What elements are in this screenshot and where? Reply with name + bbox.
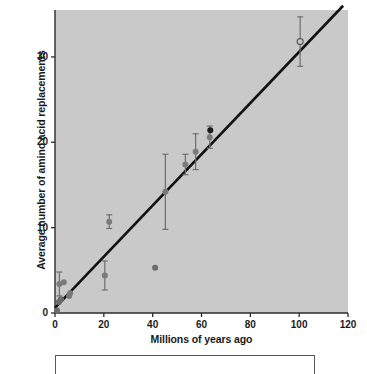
x-tick-label: 120 [333,319,363,331]
data-point [152,265,158,271]
data-point [182,161,188,167]
data-point [58,296,64,302]
data-markers-group [54,39,303,314]
data-point [67,290,73,296]
x-axis-title: Millions of years ago [55,332,348,346]
caption-box [55,355,315,374]
chart-svg [0,0,367,374]
y-tick-label: 0 [24,307,48,319]
x-tick-label: 100 [284,319,314,331]
x-tick-label: 60 [187,319,217,331]
x-tick-label: 40 [138,319,168,331]
data-point [106,219,112,225]
data-point [207,127,213,133]
data-point [54,307,60,313]
y-tick-label: 30 [24,51,48,63]
figure-container: Average number of amino acid replacement… [0,0,367,374]
errorbars-group [56,17,303,296]
data-point [162,189,168,195]
y-tick-label: 10 [24,222,48,234]
y-tick-label: 20 [24,136,48,148]
data-point [207,134,213,140]
data-point [61,279,67,285]
axes-group [51,10,348,317]
x-tick-label: 80 [235,319,265,331]
x-tick-label: 0 [40,319,70,331]
data-point [102,272,108,278]
y-axis-title: Average number of amino acid replacement… [33,35,49,285]
x-tick-label: 20 [89,319,119,331]
data-point-open [297,39,303,45]
data-point [193,149,199,155]
